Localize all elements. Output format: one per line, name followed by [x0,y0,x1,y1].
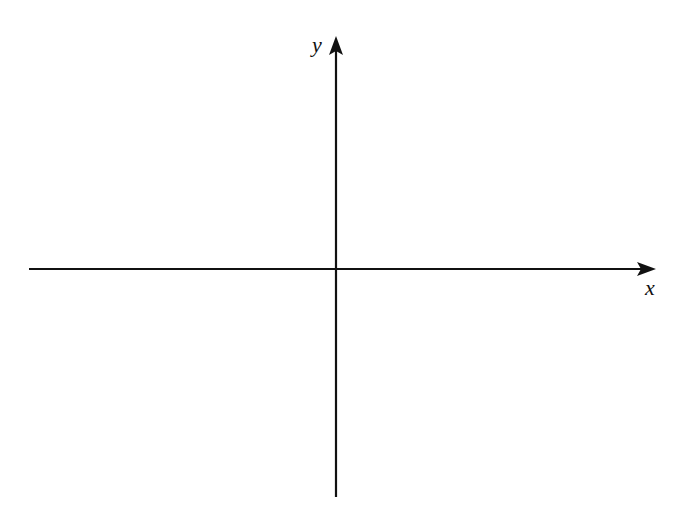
y-axis: y [310,32,343,497]
y-axis-label: y [310,32,322,57]
x-axis: x [29,262,656,300]
x-axis-label: x [644,275,655,300]
coordinate-axes-diagram: x y [0,0,678,517]
